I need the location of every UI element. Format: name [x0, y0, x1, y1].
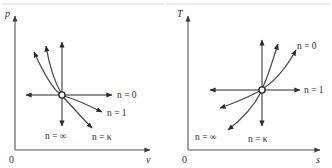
- ts-diagram-panel: T s 0 n = 0 n = 1 n = κ n = ∞: [166, 0, 332, 168]
- pv-x-axis-label: v: [146, 154, 151, 165]
- ts-origin-label: 0: [182, 154, 187, 165]
- ts-y-axis-label: T: [177, 8, 184, 19]
- pv-label-n0: n = 0: [117, 90, 137, 100]
- ts-state-point: [259, 87, 265, 93]
- pv-label-nkappa: n = κ: [92, 132, 112, 142]
- pv-origin-label: 0: [9, 154, 14, 165]
- ts-label-ninfinity: n = ∞: [195, 132, 217, 142]
- ts-x-axis-label: s: [316, 154, 320, 165]
- pv-diagram-panel: p v 0 n = 0 n = 1 n = κ n = ∞: [0, 0, 166, 168]
- pv-label-n1: n = 1: [107, 108, 127, 118]
- pv-label-ninfinity: n = ∞: [45, 131, 67, 141]
- pv-y-axis-label: p: [4, 8, 10, 19]
- ts-curve-nk-upright: [263, 44, 278, 87]
- pv-curve-nk-downright: [63, 97, 92, 128]
- pv-curve-nk-upleft: [46, 46, 61, 93]
- ts-curve-n0-upright: [264, 50, 296, 88]
- ts-label-n0: n = 0: [297, 41, 317, 51]
- pv-state-point: [59, 92, 65, 98]
- ts-label-nkappa: n = κ: [248, 134, 268, 144]
- pv-curve-n1-upleft: [34, 52, 60, 94]
- polytropic-process-figure: p v 0 n = 0 n = 1 n = κ n = ∞: [0, 0, 332, 168]
- ts-label-n1: n = 1: [304, 85, 324, 95]
- ts-curve-n0-downleft: [220, 91, 260, 108]
